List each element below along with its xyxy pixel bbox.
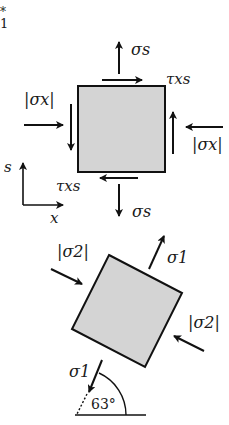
sigma2-right-arrow-icon xyxy=(174,336,204,351)
sigma-s-bottom-label: σs xyxy=(132,202,151,221)
sigma1-top-arrow-icon xyxy=(149,236,164,269)
tau-bottom-label: τxs xyxy=(56,177,81,195)
dashed-reference-line xyxy=(77,394,87,414)
sigma1-bottom-arrow-icon xyxy=(89,360,102,392)
principal-element-square xyxy=(72,255,182,367)
stress-element-square xyxy=(78,86,165,172)
x-axis-label: x xyxy=(50,209,59,227)
sigma-x-right-label: |σx| xyxy=(192,135,223,154)
sigma1-bottom-label: σ1 xyxy=(69,362,90,381)
sigma1-top-label: σ1 xyxy=(167,248,188,267)
corner-digit: 1 xyxy=(0,16,8,31)
angle-label: 63° xyxy=(91,396,116,412)
sigma-x-left-label: |σx| xyxy=(24,90,55,109)
tau-top-label: τxs xyxy=(166,70,191,88)
sigma2-left-arrow-icon xyxy=(51,269,82,284)
stress-element-diagram: * 1 σs τxs |σx| |σx| τxs σs s x |σ2| σ1 … xyxy=(0,0,229,425)
sigma-s-top-label: σs xyxy=(131,40,150,59)
sigma2-right-label: |σ2| xyxy=(188,313,220,332)
sigma2-left-label: |σ2| xyxy=(57,242,89,261)
s-axis-label: s xyxy=(4,158,12,176)
